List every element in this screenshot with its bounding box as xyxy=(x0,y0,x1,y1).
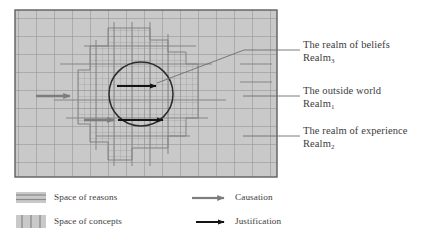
callout-realm-of-beliefs: The realm of beliefs Realm3 xyxy=(303,39,390,67)
callout-realm-of-experience: The realm of experience Realm2 xyxy=(303,125,408,153)
outside-world-field xyxy=(15,10,277,177)
callout-outside-world-base: Realm xyxy=(303,98,331,109)
callout-realm-of-beliefs-line1: The realm of beliefs xyxy=(303,39,390,52)
callout-realm-of-experience-base: Realm xyxy=(303,138,331,149)
callout-outside-world-sub: 1 xyxy=(331,103,335,111)
callout-realm-of-beliefs-base: Realm xyxy=(303,52,331,63)
callout-realm-of-beliefs-line2: Realm3 xyxy=(303,52,390,68)
callout-outside-world: The outside world Realm1 xyxy=(303,85,381,113)
callout-outside-world-line2: Realm1 xyxy=(303,98,381,114)
figure-root: The realm of beliefs Realm3 The outside … xyxy=(0,0,438,243)
legend-swatch-space-of-reasons xyxy=(16,192,46,203)
legend-label-space-of-concepts: Space of concepts xyxy=(54,216,122,226)
diagram-canvas xyxy=(0,0,438,243)
legend-swatch-space-of-concepts xyxy=(16,215,46,228)
callout-outside-world-line1: The outside world xyxy=(303,85,381,98)
legend-label-justification: Justification xyxy=(235,216,281,226)
callout-realm-of-experience-sub: 2 xyxy=(331,143,335,151)
legend-label-space-of-reasons: Space of reasons xyxy=(54,192,117,202)
callout-realm-of-experience-line2: Realm2 xyxy=(303,138,408,154)
callout-realm-of-experience-line1: The realm of experience xyxy=(303,125,408,138)
legend-label-causation: Causation xyxy=(235,192,273,202)
callout-realm-of-beliefs-sub: 3 xyxy=(331,57,335,65)
